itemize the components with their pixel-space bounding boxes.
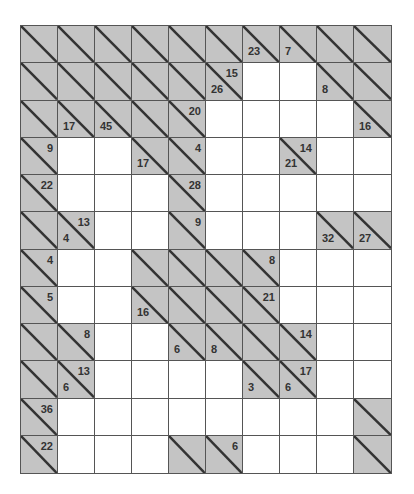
entry-cell[interactable] <box>206 212 243 249</box>
entry-cell[interactable] <box>132 436 169 473</box>
entry-cell[interactable] <box>243 212 280 249</box>
entry-cell[interactable] <box>243 63 280 100</box>
entry-cell[interactable] <box>354 324 391 361</box>
entry-cell[interactable] <box>95 175 132 212</box>
entry-cell[interactable] <box>280 101 317 138</box>
entry-cell[interactable] <box>243 436 280 473</box>
across-clue: 9 <box>47 143 53 154</box>
entry-cell[interactable] <box>132 324 169 361</box>
entry-cell[interactable] <box>58 138 95 175</box>
entry-cell[interactable] <box>95 324 132 361</box>
entry-cell[interactable] <box>243 101 280 138</box>
entry-cell[interactable] <box>317 436 354 473</box>
clue-cell: 27 <box>354 212 391 249</box>
down-clue: 23 <box>248 46 260 57</box>
entry-cell[interactable] <box>354 287 391 324</box>
entry-cell[interactable] <box>95 287 132 324</box>
clue-cell: 6 <box>169 324 206 361</box>
block-cell <box>354 26 391 63</box>
entry-cell[interactable] <box>206 361 243 398</box>
entry-cell[interactable] <box>317 324 354 361</box>
entry-cell[interactable] <box>317 101 354 138</box>
entry-cell[interactable] <box>317 138 354 175</box>
across-clue: 22 <box>41 180 53 191</box>
entry-cell[interactable] <box>95 212 132 249</box>
entry-cell[interactable] <box>280 175 317 212</box>
diagonal-divider-icon <box>169 63 205 99</box>
entry-cell[interactable] <box>317 287 354 324</box>
entry-cell[interactable] <box>317 361 354 398</box>
block-cell <box>132 250 169 287</box>
diagonal-divider-icon <box>206 250 242 286</box>
entry-cell[interactable] <box>58 399 95 436</box>
entry-cell[interactable] <box>132 361 169 398</box>
diagonal-divider-icon <box>169 26 205 62</box>
entry-cell[interactable] <box>280 436 317 473</box>
diagonal-divider-icon <box>132 101 168 137</box>
block-cell <box>21 324 58 361</box>
entry-cell[interactable] <box>58 436 95 473</box>
block-cell <box>206 250 243 287</box>
diagonal-divider-icon <box>243 324 279 360</box>
diagonal-divider-icon <box>21 361 57 397</box>
entry-cell[interactable] <box>317 175 354 212</box>
entry-cell[interactable] <box>95 361 132 398</box>
block-cell <box>206 26 243 63</box>
entry-cell[interactable] <box>169 361 206 398</box>
entry-cell[interactable] <box>95 138 132 175</box>
entry-cell[interactable] <box>280 287 317 324</box>
entry-cell[interactable] <box>132 212 169 249</box>
entry-cell[interactable] <box>243 399 280 436</box>
entry-cell[interactable] <box>280 212 317 249</box>
across-clue: 14 <box>300 329 312 340</box>
block-cell <box>58 63 95 100</box>
entry-cell[interactable] <box>280 250 317 287</box>
diagonal-divider-icon <box>132 250 168 286</box>
entry-cell[interactable] <box>95 399 132 436</box>
block-cell <box>169 63 206 100</box>
entry-cell[interactable] <box>317 250 354 287</box>
clue-cell: 45 <box>95 101 132 138</box>
down-clue: 16 <box>137 307 149 318</box>
entry-cell[interactable] <box>280 399 317 436</box>
entry-cell[interactable] <box>354 138 391 175</box>
entry-cell[interactable] <box>206 138 243 175</box>
entry-cell[interactable] <box>206 101 243 138</box>
across-clue: 13 <box>78 217 90 228</box>
entry-cell[interactable] <box>317 399 354 436</box>
entry-cell[interactable] <box>58 287 95 324</box>
clue-cell: 134 <box>58 212 95 249</box>
entry-cell[interactable] <box>169 399 206 436</box>
down-clue: 16 <box>359 121 371 132</box>
entry-cell[interactable] <box>243 175 280 212</box>
clue-cell: 136 <box>58 361 95 398</box>
diagonal-divider-icon <box>169 436 205 473</box>
entry-cell[interactable] <box>280 63 317 100</box>
entry-cell[interactable] <box>132 175 169 212</box>
block-cell <box>317 26 354 63</box>
entry-cell[interactable] <box>354 175 391 212</box>
entry-cell[interactable] <box>95 250 132 287</box>
across-clue: 8 <box>84 329 90 340</box>
entry-cell[interactable] <box>206 399 243 436</box>
clue-cell: 16 <box>354 101 391 138</box>
entry-cell[interactable] <box>95 436 132 473</box>
diagonal-divider-icon <box>95 63 131 99</box>
entry-cell[interactable] <box>354 250 391 287</box>
entry-cell[interactable] <box>132 399 169 436</box>
entry-cell[interactable] <box>206 175 243 212</box>
block-cell <box>95 63 132 100</box>
entry-cell[interactable] <box>58 175 95 212</box>
entry-cell[interactable] <box>243 138 280 175</box>
entry-cell[interactable] <box>354 361 391 398</box>
down-clue: 17 <box>137 158 149 169</box>
down-clue: 45 <box>100 121 112 132</box>
down-clue: 27 <box>359 233 371 244</box>
entry-cell[interactable] <box>58 250 95 287</box>
across-clue: 4 <box>47 255 53 266</box>
across-clue: 17 <box>300 366 312 377</box>
clue-cell: 22 <box>21 175 58 212</box>
clue-cell: 6 <box>206 436 243 473</box>
across-clue: 4 <box>195 143 201 154</box>
down-clue: 8 <box>211 344 217 355</box>
